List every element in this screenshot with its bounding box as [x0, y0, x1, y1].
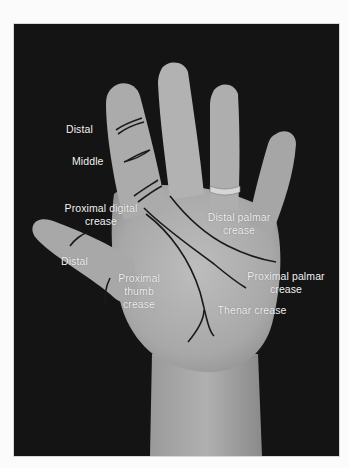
label-distal-thumb-crease: Distal	[61, 255, 88, 268]
label-proximal-palmar-crease: Proximal palmar crease	[240, 270, 332, 296]
label-thenar-crease: Thenar crease	[210, 304, 294, 317]
label-middle-finger-crease: Middle	[72, 155, 104, 168]
label-distal-palmar-crease: Distal palmar crease	[199, 211, 279, 237]
label-distal-finger-crease: Distal	[66, 123, 93, 136]
hand-photo	[14, 24, 339, 456]
label-proximal-digital-crease: Proximal digital crease	[56, 202, 146, 228]
palm-crease-figure: Distal Middle Proximal digital crease Di…	[14, 24, 339, 456]
middle-finger	[158, 62, 204, 200]
label-proximal-thumb-crease: Proximal thumb crease	[114, 272, 164, 311]
